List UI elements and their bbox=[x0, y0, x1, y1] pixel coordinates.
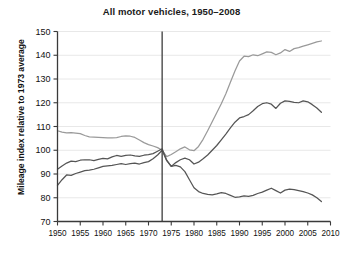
x-tick-label: 1980 bbox=[185, 229, 204, 238]
x-tick-label: 1950 bbox=[48, 229, 67, 238]
y-tick-label: 80 bbox=[40, 193, 50, 203]
line-series-upper bbox=[58, 41, 322, 157]
x-tick-label: 1975 bbox=[162, 229, 181, 238]
x-tick-label: 1955 bbox=[71, 229, 90, 238]
plot-area: 708090100110120130140150 195019551960196… bbox=[0, 0, 343, 256]
x-tick-label: 1965 bbox=[117, 229, 136, 238]
y-tick-label: 70 bbox=[40, 217, 50, 227]
x-tick-label: 2010 bbox=[321, 229, 340, 238]
x-tick-label: 1995 bbox=[253, 229, 272, 238]
x-tick-label: 2005 bbox=[299, 229, 318, 238]
x-tick-label: 1990 bbox=[230, 229, 249, 238]
y-tick-label: 110 bbox=[36, 122, 50, 132]
line-series-lower bbox=[58, 150, 322, 201]
y-tick-label: 130 bbox=[35, 74, 50, 84]
y-tick-label: 140 bbox=[35, 50, 50, 60]
x-tick-label: 1970 bbox=[139, 229, 158, 238]
gridlines bbox=[58, 32, 331, 222]
y-tick-label: 120 bbox=[35, 98, 50, 108]
chart-container: All motor vehicles, 1950–2008 Mileage in… bbox=[0, 0, 343, 256]
line-series-middle bbox=[58, 101, 322, 169]
x-tick-label: 2000 bbox=[276, 229, 295, 238]
y-tick-labels: 708090100110120130140150 bbox=[35, 27, 57, 227]
y-tick-label: 150 bbox=[35, 27, 50, 37]
x-tick-labels: 1950195519601965197019751980198519901995… bbox=[48, 222, 340, 238]
x-tick-label: 1985 bbox=[208, 229, 227, 238]
x-tick-label: 1960 bbox=[94, 229, 113, 238]
y-tick-label: 100 bbox=[35, 145, 50, 155]
series-lines bbox=[58, 41, 322, 202]
y-tick-label: 90 bbox=[40, 169, 50, 179]
